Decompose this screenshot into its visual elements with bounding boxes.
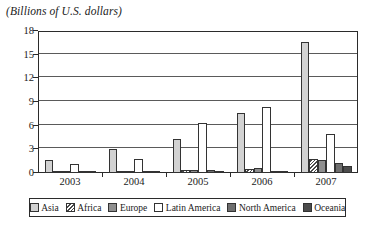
bar-latin-america-2003 — [70, 164, 79, 173]
x-tick-label-2003: 2003 — [38, 176, 102, 188]
legend-item-north-america[interactable]: North America — [227, 203, 295, 213]
hatched-swatch — [66, 203, 75, 212]
y-tick-label: 15 — [2, 50, 34, 60]
bar-europe-2006 — [254, 168, 263, 173]
bar-group-2007 — [294, 31, 358, 173]
bar-europe-2007 — [318, 160, 327, 173]
legend-item-africa[interactable]: Africa — [66, 203, 102, 213]
x-tick-label-2006: 2006 — [230, 176, 294, 188]
legend-label: Latin America — [166, 203, 221, 213]
bar-africa-2004 — [117, 171, 126, 173]
legend-label: Europe — [120, 203, 147, 213]
legend-item-europe[interactable]: Europe — [108, 203, 147, 213]
bar-europe-2003 — [62, 171, 71, 173]
bar-latin-america-2005 — [198, 123, 207, 173]
y-tick-label: 18 — [2, 26, 34, 36]
y-tick-label: 6 — [2, 121, 34, 131]
bar-group-2003 — [38, 31, 102, 173]
bar-north-america-2004 — [143, 171, 152, 173]
darkest-gray-swatch — [303, 203, 312, 212]
bar-asia-2004 — [109, 149, 118, 173]
legend-label: North America — [239, 203, 296, 213]
bar-asia-2005 — [173, 139, 182, 173]
bar-africa-2003 — [53, 171, 62, 173]
bar-asia-2006 — [237, 113, 246, 173]
legend-item-latin-america[interactable]: Latin America — [154, 203, 220, 213]
bar-africa-2006 — [245, 169, 254, 173]
bar-africa-2005 — [181, 170, 190, 173]
bar-europe-2004 — [126, 171, 135, 173]
bar-north-america-2003 — [79, 171, 88, 173]
legend-item-asia[interactable]: Asia — [30, 203, 59, 213]
chart-legend: AsiaAfricaEuropeLatin AmericaNorth Ameri… — [29, 198, 346, 217]
bar-oceania-2006 — [279, 171, 288, 173]
y-tick-label: 12 — [2, 73, 34, 83]
bar-oceania-2005 — [215, 171, 224, 173]
bar-asia-2003 — [45, 160, 54, 173]
bar-africa-2007 — [309, 159, 318, 173]
dark-gray-swatch — [227, 203, 236, 212]
bars-layer — [38, 31, 358, 173]
bar-oceania-2004 — [151, 171, 160, 173]
bar-asia-2007 — [301, 42, 310, 173]
y-tick-label: 3 — [2, 144, 34, 154]
x-tick-label-2007: 2007 — [294, 176, 358, 188]
bar-group-2005 — [166, 31, 230, 173]
chart-title: (Billions of U.S. dollars) — [6, 5, 122, 17]
bar-group-2006 — [230, 31, 294, 173]
white-swatch — [154, 203, 163, 212]
bar-europe-2005 — [190, 170, 199, 173]
bar-latin-america-2006 — [262, 107, 271, 173]
y-tick-label: 9 — [2, 97, 34, 107]
legend-label: Asia — [41, 203, 58, 213]
bar-oceania-2007 — [343, 166, 352, 173]
x-tick-label-2004: 2004 — [102, 176, 166, 188]
bar-latin-america-2007 — [326, 134, 335, 173]
bar-oceania-2003 — [87, 171, 96, 173]
light-gray-swatch — [30, 203, 39, 212]
legend-label: Oceania — [314, 203, 345, 213]
legend-label: Africa — [77, 203, 101, 213]
bar-group-2004 — [102, 31, 166, 173]
bar-north-america-2005 — [207, 170, 216, 173]
x-axis: 20032004200520062007 — [38, 176, 358, 192]
legend-item-oceania[interactable]: Oceania — [303, 203, 346, 213]
bar-latin-america-2004 — [134, 159, 143, 173]
bar-chart-figure: (Billions of U.S. dollars) 0369121518 20… — [0, 0, 374, 232]
medium-gray-swatch — [108, 203, 117, 212]
bar-north-america-2006 — [271, 171, 280, 173]
bar-north-america-2007 — [335, 163, 344, 173]
x-tick-label-2005: 2005 — [166, 176, 230, 188]
y-tick-label: 0 — [2, 168, 34, 178]
